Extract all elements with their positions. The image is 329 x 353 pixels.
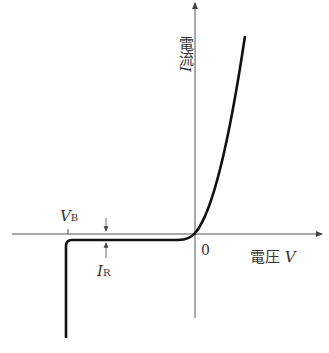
breakdown-voltage-label: VB xyxy=(60,207,78,225)
vb-symbol: V xyxy=(60,207,71,225)
vb-subscript: B xyxy=(71,212,78,223)
y-axis-label-text: 電流 xyxy=(176,36,194,66)
ir-subscript: R xyxy=(103,267,111,278)
reverse-current-label: IR xyxy=(97,262,110,280)
y-axis-label: 電流I xyxy=(175,36,196,72)
y-axis-symbol: I xyxy=(176,66,194,72)
x-axis-label: 電圧 V xyxy=(250,245,296,266)
x-axis-label-text: 電圧 xyxy=(250,248,280,266)
iv-characteristic-diagram xyxy=(0,0,329,353)
iv-curve xyxy=(66,36,245,338)
x-axis-symbol: V xyxy=(285,248,296,266)
origin-label: 0 xyxy=(201,242,210,258)
